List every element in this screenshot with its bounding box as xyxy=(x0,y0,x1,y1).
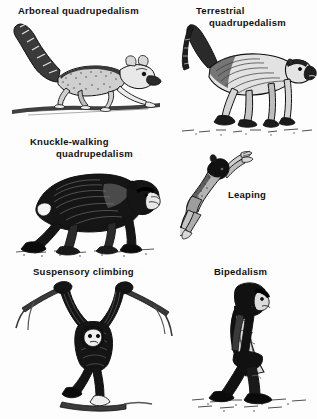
panel-leaping xyxy=(180,150,260,250)
panel-knuckle-walking-quadrupedalism xyxy=(8,160,170,260)
caption-bipedalism: Bipedalism xyxy=(214,266,267,278)
caption-knuckle-walking-quadrupedalism: Knuckle-walking quadrupedalism xyxy=(30,136,133,160)
galago-leaping-illustration xyxy=(180,150,260,250)
caption-line-1: Suspensory climbing xyxy=(33,266,134,277)
gibbon-suspensory-climbing-illustration xyxy=(14,278,174,416)
caption-line-1: Bipedalism xyxy=(214,266,267,277)
panel-arboreal-quadrupedalism xyxy=(8,18,168,130)
baboon-terrestrial-quadrupedalism-illustration xyxy=(176,18,317,140)
chimpanzee-knuckle-walking-illustration xyxy=(8,160,170,260)
hominid-bipedalism-illustration xyxy=(190,278,310,416)
primate-locomotion-figure: Arboreal quadrupedalism xyxy=(0,0,317,419)
panel-bipedalism xyxy=(190,278,310,416)
caption-line-2: quadrupedalism xyxy=(30,148,133,160)
lemur-arboreal-quadrupedalism-illustration xyxy=(8,18,168,130)
caption-suspensory-climbing: Suspensory climbing xyxy=(33,266,134,278)
panel-terrestrial-quadrupedalism xyxy=(176,18,317,140)
caption-line-1: Arboreal quadrupedalism xyxy=(18,5,139,16)
caption-line-1: Terrestrial xyxy=(196,5,245,16)
caption-arboreal-quadrupedalism: Arboreal quadrupedalism xyxy=(18,5,139,17)
panel-suspensory-climbing xyxy=(14,278,174,416)
caption-line-1: Knuckle-walking xyxy=(30,136,109,147)
